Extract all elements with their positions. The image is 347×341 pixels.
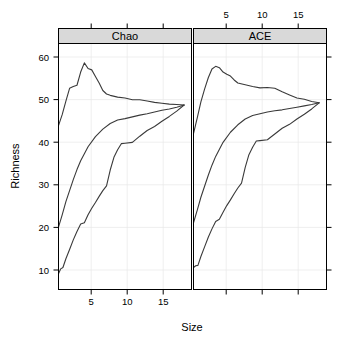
y-tick-label-30: 30	[38, 179, 49, 190]
y-tick-label-50: 50	[38, 94, 49, 105]
x-tick-label-chao-5: 5	[89, 296, 94, 307]
trellis-chart-figure: Chao ACE 60 50 40 30 20 10	[0, 0, 347, 341]
x-tick-label-chao-10: 10	[122, 296, 133, 307]
x-tick-label-ace-5: 5	[224, 9, 229, 20]
y-axis-left: 60 50 40 30 20 10	[38, 52, 58, 276]
strip-label-chao: Chao	[112, 30, 138, 42]
chart-canvas: Chao ACE 60 50 40 30 20 10	[0, 0, 347, 341]
x-axis-chao-top-ticks	[91, 24, 163, 29]
y-tick-label-40: 40	[38, 137, 49, 148]
y-tick-label-20: 20	[38, 222, 49, 233]
y-tick-label-60: 60	[38, 52, 49, 63]
x-axis-chao-bottom: 5 10 15	[89, 290, 169, 308]
x-axis-title: Size	[181, 321, 202, 333]
y-axis-title: Richness	[9, 143, 21, 189]
y-tick-label-10: 10	[38, 265, 49, 276]
strip-label-ace: ACE	[249, 30, 272, 42]
strip-ace: ACE	[194, 29, 327, 44]
x-tick-label-ace-15: 15	[293, 9, 304, 20]
x-axis-ace-bottom-ticks	[226, 290, 298, 295]
x-tick-label-ace-10: 10	[257, 9, 268, 20]
x-axis-ace-top: 5 10 15	[224, 9, 304, 29]
x-tick-label-chao-15: 15	[158, 296, 169, 307]
strip-chao: Chao	[59, 29, 192, 44]
y-axis-right-ticks	[327, 57, 332, 270]
panel-ace-background	[194, 44, 327, 290]
